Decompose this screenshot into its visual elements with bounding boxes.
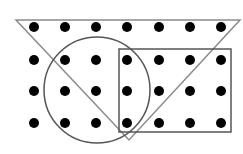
dot <box>216 22 226 32</box>
dot <box>122 22 132 32</box>
dot-grid-diagram <box>0 0 243 154</box>
dot <box>185 86 195 96</box>
dot <box>91 86 101 96</box>
dot <box>91 55 101 65</box>
dot <box>154 86 164 96</box>
dot <box>91 118 101 128</box>
dot <box>60 86 70 96</box>
dot <box>60 118 70 128</box>
dot <box>122 55 132 65</box>
dot <box>29 22 39 32</box>
dot <box>60 22 70 32</box>
dot <box>154 118 164 128</box>
dot <box>91 22 101 32</box>
dot <box>185 22 195 32</box>
dot <box>216 118 226 128</box>
dot <box>185 55 195 65</box>
dot <box>216 55 226 65</box>
dot <box>154 22 164 32</box>
dot <box>122 118 132 128</box>
dot <box>29 118 39 128</box>
dot <box>29 55 39 65</box>
dot <box>60 55 70 65</box>
dot <box>29 86 39 96</box>
dot <box>216 86 226 96</box>
dot <box>185 118 195 128</box>
dot <box>154 55 164 65</box>
dot <box>122 86 132 96</box>
